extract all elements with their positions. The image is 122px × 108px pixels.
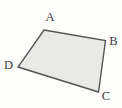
quadrilateral-figure: ABCD	[0, 0, 122, 108]
quadrilateral-shape	[18, 30, 106, 92]
vertex-label-C: C	[102, 89, 110, 103]
figure-canvas: ABCD	[0, 0, 122, 108]
vertex-label-A: A	[45, 10, 54, 24]
vertex-label-D: D	[4, 58, 13, 72]
vertex-label-B: B	[109, 34, 117, 48]
